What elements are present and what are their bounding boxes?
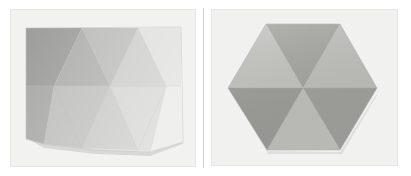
left-folded-sheet-facets bbox=[26, 27, 185, 156]
panel-left-folded-sheet bbox=[0, 0, 204, 176]
left-light-wash bbox=[26, 27, 183, 152]
right-photo-svg bbox=[204, 0, 411, 176]
left-photo-svg bbox=[0, 0, 204, 176]
figure-container bbox=[0, 0, 411, 176]
panel-right-folded-hexagon bbox=[204, 0, 411, 176]
